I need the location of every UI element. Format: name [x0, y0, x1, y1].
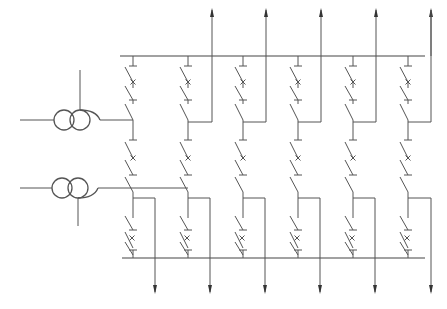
bay-5-sw4-blade — [345, 177, 353, 192]
bay-1-sw3-blade — [125, 142, 133, 158]
bay-1-brk3-blade — [125, 232, 133, 248]
bay-5-brk3-blade — [345, 232, 353, 248]
bay-5-sw6-blade — [345, 242, 353, 255]
bay-5-brk1-blade — [345, 86, 353, 100]
transformer-1-primary-icon — [54, 110, 74, 130]
transformer-2-primary-icon — [52, 178, 72, 198]
bay-2-sw4-blade — [180, 177, 188, 192]
bay-6-sw1-blade — [400, 67, 408, 82]
bay-1-sw1-blade — [125, 67, 133, 82]
bay-3-sw4-blade — [235, 177, 243, 192]
bay-6-lower-arrow-icon — [429, 285, 433, 294]
transformer-1-secondary-icon — [70, 110, 90, 130]
bay-6-sw2-blade — [400, 104, 408, 120]
bay-4-brk1-blade — [290, 86, 298, 100]
bay-3-sw3-blade — [235, 142, 243, 158]
bay-6-brk2-blade — [400, 160, 408, 175]
bay-4-brk3-blade — [290, 232, 298, 248]
bay-3-brk1-blade — [235, 86, 243, 100]
single-line-diagram — [0, 0, 447, 309]
bay-4-sw1-blade — [290, 67, 298, 82]
bay-5-sw1-blade — [345, 67, 353, 82]
bay-4-upper-arrow-icon — [319, 8, 323, 17]
bay-2-sw3-blade — [180, 142, 188, 158]
bay-1-sw4-blade — [125, 177, 133, 192]
bay-4-sw5-blade — [290, 216, 298, 230]
bay-2-upper-arrow-icon — [210, 8, 214, 17]
bay-5-upper-arrow-icon — [374, 8, 378, 17]
bay-2-brk3-blade — [180, 232, 188, 248]
bay-6-brk3-blade — [400, 232, 408, 248]
bay-6-sw4-blade — [400, 177, 408, 192]
bay-6-sw5-blade — [400, 216, 408, 230]
bay-2-sw5-blade — [180, 216, 188, 230]
bay-2-sw2-blade — [180, 104, 188, 120]
bay-5-sw3-blade — [345, 142, 353, 158]
bay-3-sw6-blade — [235, 242, 243, 255]
bay-3-sw1-blade — [235, 67, 243, 82]
bay-3-sw5-blade — [235, 216, 243, 230]
bay-1-sw5-blade — [125, 216, 133, 230]
bay-2-lower-arrow-icon — [208, 285, 212, 294]
bay-6-brk1-blade — [400, 86, 408, 100]
bay-1-brk2-blade — [125, 160, 133, 175]
bay-6-sw6-blade — [400, 242, 408, 255]
bay-1-sw6-blade — [125, 242, 133, 255]
bay-2-sw6-blade — [180, 242, 188, 255]
bay-2-sw1-blade — [180, 67, 188, 82]
transformer-2-secondary-icon — [68, 178, 88, 198]
bay-3-upper-arrow-icon — [264, 8, 268, 17]
bay-4-sw2-blade — [290, 104, 298, 120]
bay-1-lower-arrow-icon — [153, 285, 157, 294]
bay-5-brk2-blade — [345, 160, 353, 175]
bay-5-sw5-blade — [345, 216, 353, 230]
bay-4-brk2-blade — [290, 160, 298, 175]
bay-3-brk2-blade — [235, 160, 243, 175]
bay-4-lower-arrow-icon — [318, 285, 322, 294]
bay-3-lower-arrow-icon — [263, 285, 267, 294]
bay-2-brk1-blade — [180, 86, 188, 100]
bay-1-brk1-blade — [125, 86, 133, 100]
bay-3-sw2-blade — [235, 104, 243, 120]
bay-4-sw3-blade — [290, 142, 298, 158]
bay-4-sw6-blade — [290, 242, 298, 255]
bay-3-brk3-blade — [235, 232, 243, 248]
bay-6-sw3-blade — [400, 142, 408, 158]
bay-2-brk2-blade — [180, 160, 188, 175]
bay-5-sw2-blade — [345, 104, 353, 120]
bay-4-sw4-blade — [290, 177, 298, 192]
bay-5-lower-arrow-icon — [373, 285, 377, 294]
bay-1-sw2-blade — [125, 104, 133, 120]
